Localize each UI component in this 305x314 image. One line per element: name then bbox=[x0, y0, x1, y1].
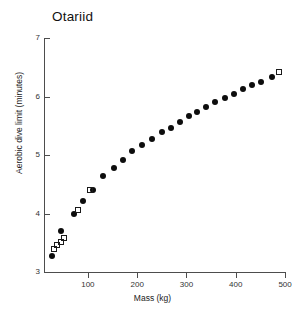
x-axis-tick-label: 200 bbox=[124, 280, 150, 289]
data-point-open-square bbox=[276, 69, 282, 75]
x-axis-tick bbox=[236, 273, 237, 278]
x-axis-line bbox=[44, 272, 286, 273]
y-axis-tick-label: 6 bbox=[26, 92, 40, 101]
y-axis-label: Aerobic dive limit (minutes) bbox=[14, 48, 24, 198]
plot-area bbox=[44, 38, 290, 272]
data-point-open-square bbox=[61, 235, 67, 241]
x-axis-tick bbox=[88, 273, 89, 278]
y-axis-tick-label: 7 bbox=[26, 33, 40, 42]
data-point-open-square bbox=[75, 207, 81, 213]
data-point-filled-circle bbox=[231, 91, 237, 97]
y-axis-tick bbox=[45, 272, 50, 273]
x-axis-label: Mass (kg) bbox=[0, 293, 305, 303]
data-point-filled-circle bbox=[249, 82, 255, 88]
x-axis-tick bbox=[137, 273, 138, 278]
x-axis-tick-label: 400 bbox=[223, 280, 249, 289]
x-axis-tick bbox=[186, 273, 187, 278]
data-point-filled-circle bbox=[58, 228, 64, 234]
data-point-filled-circle bbox=[159, 129, 165, 135]
x-axis-tick-label: 300 bbox=[173, 280, 199, 289]
data-point-filled-circle bbox=[168, 125, 174, 131]
x-axis-tick bbox=[285, 273, 286, 278]
y-axis-tick-label: 4 bbox=[26, 209, 40, 218]
data-point-filled-circle bbox=[149, 136, 155, 142]
y-axis-tick-label: 3 bbox=[26, 267, 40, 276]
data-point-open-square bbox=[87, 187, 93, 193]
data-point-filled-circle bbox=[222, 95, 228, 101]
scatter-chart-figure: Otariid 34567100200300400500 Mass (kg) A… bbox=[0, 0, 305, 314]
data-point-filled-circle bbox=[240, 86, 246, 92]
chart-title: Otariid bbox=[52, 9, 93, 24]
x-axis-tick-label: 500 bbox=[272, 280, 298, 289]
data-point-filled-circle bbox=[111, 165, 117, 171]
x-axis-tick-label: 100 bbox=[75, 280, 101, 289]
y-axis-tick-label: 5 bbox=[26, 150, 40, 159]
data-point-filled-circle bbox=[177, 119, 183, 125]
